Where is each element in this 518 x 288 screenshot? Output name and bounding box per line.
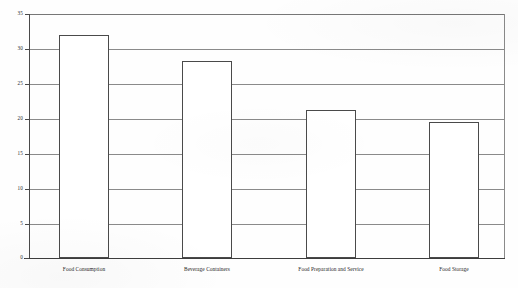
bar-food-storage (429, 122, 479, 258)
y-tick-mark-35 (25, 14, 29, 15)
y-tick-label-30: 30 (18, 46, 23, 51)
y-tick-mark-25 (25, 84, 29, 85)
y-tick-mark-10 (25, 189, 29, 190)
y-tick-label-15: 15 (18, 151, 23, 156)
bar-beverage-containers (182, 61, 232, 258)
x-axis-label-food-preparation-and-service: Food Preparation and Service (298, 267, 363, 272)
bar-food-consumption (59, 35, 109, 258)
bar-food-preparation-and-service (306, 110, 356, 258)
y-tick-label-0: 0 (20, 255, 23, 260)
y-tick-mark-20 (25, 119, 29, 120)
y-tick-label-10: 10 (18, 186, 23, 191)
y-axis-line (29, 14, 30, 259)
y-tick-label-35: 35 (18, 11, 23, 16)
x-axis-label-beverage-containers: Beverage Containers (184, 267, 230, 272)
bar-chart-figure: 35 30 25 20 15 10 5 0 Food Consumption B… (0, 0, 518, 288)
y-tick-mark-30 (25, 49, 29, 50)
y-tick-label-5: 5 (20, 221, 23, 226)
x-axis-label-food-storage: Food Storage (439, 267, 469, 272)
gridline-35 (29, 14, 505, 15)
y-tick-label-20: 20 (18, 116, 23, 121)
y-tick-mark-5 (25, 224, 29, 225)
plot-frame-right-edge (504, 14, 505, 259)
plot-area: 35 30 25 20 15 10 5 0 (29, 14, 505, 259)
x-axis-line (24, 258, 505, 259)
y-tick-mark-15 (25, 154, 29, 155)
x-axis-label-food-consumption: Food Consumption (63, 267, 105, 272)
y-tick-label-25: 25 (18, 81, 23, 86)
y-tick-mark-0 (25, 258, 29, 259)
cut-off-caption: ................ ..... (300, 279, 334, 284)
